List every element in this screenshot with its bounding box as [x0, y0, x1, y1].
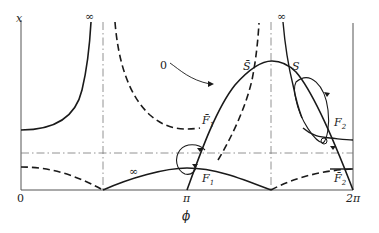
left-solid-branch: [21, 22, 91, 130]
phase-diagram: x ϕ 0 π 2π ∞ ∞ ∞ 0 S̄ S F̄1 F1 F2 F̄2: [0, 0, 379, 233]
label-F2: F2: [333, 116, 347, 131]
arrow-icon: [208, 81, 214, 87]
dashed-lower-left: [21, 167, 103, 190]
infinity-mark-low: ∞: [129, 165, 138, 178]
label-zero: 0: [160, 59, 167, 72]
label-F2-bar: F̄2: [333, 172, 347, 187]
pointer-zero: [170, 63, 210, 84]
dashed-branch-center: [218, 23, 259, 160]
label-F1-bar: F̄1: [201, 114, 214, 129]
x-tick-0: 0: [17, 192, 24, 205]
label-S: S: [292, 60, 300, 73]
fixed-point-F2: [321, 138, 327, 144]
infinity-mark-left: ∞: [85, 10, 94, 23]
y-axis-label: x: [16, 12, 23, 25]
x-tick-pi: π: [182, 192, 191, 205]
label-F1: F1: [201, 172, 214, 187]
label-S-bar: S̄: [243, 60, 251, 73]
x-axis-label: ϕ: [182, 209, 190, 223]
arrow-icon: [330, 146, 336, 150]
x-tick-2pi: 2π: [345, 192, 361, 205]
infinity-mark-right: ∞: [277, 10, 286, 23]
